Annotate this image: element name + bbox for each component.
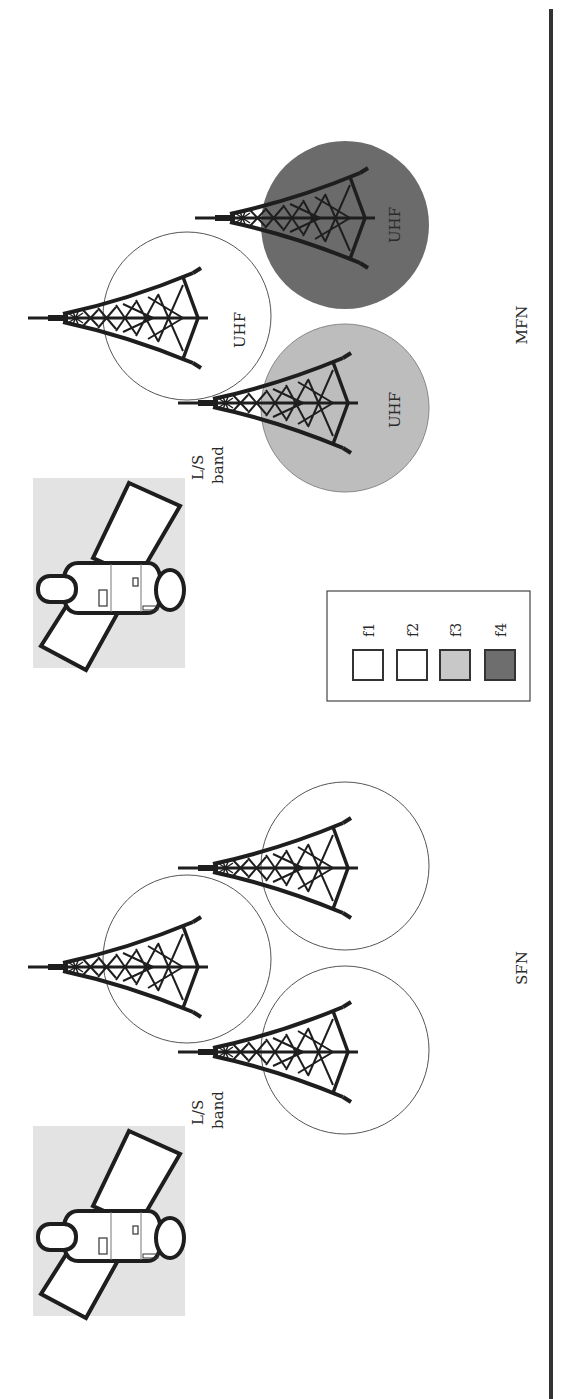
- svg-text:f3: f3: [448, 623, 464, 637]
- mfn-label: MFN: [513, 306, 531, 345]
- mfn-ls-band-label: L/S band: [189, 446, 227, 484]
- frequency-legend: f1 f2 f3 f4: [327, 591, 530, 701]
- mfn-cell-bottom-right-label: UHF: [386, 392, 404, 428]
- svg-text:f1: f1: [361, 623, 377, 637]
- sfn-cell-bottom-right: [261, 966, 429, 1134]
- mfn-cell-center-label: UHF: [231, 312, 249, 348]
- network-diagram: UHF UHF UHF L/S band MFN f1 f2 f3 f4: [0, 0, 562, 1399]
- svg-text:f2: f2: [405, 623, 421, 637]
- svg-text:f4: f4: [493, 623, 509, 637]
- sfn-cell-center: [103, 875, 271, 1043]
- satellite-icon: [33, 1126, 185, 1318]
- sfn-cell-top-right: [261, 782, 429, 950]
- mfn-cell-top-right-label: UHF: [386, 207, 404, 243]
- satellite-icon: [33, 478, 185, 670]
- sfn-label: SFN: [513, 951, 531, 985]
- sfn-section: L/S band SFN: [28, 782, 531, 1318]
- sfn-ls-band-label: L/S band: [189, 1091, 227, 1129]
